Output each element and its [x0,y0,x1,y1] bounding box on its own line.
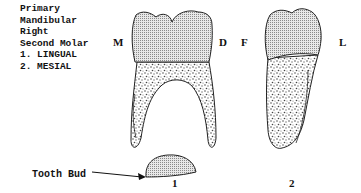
view-number-2: 2 [289,177,295,189]
root-mesial [131,62,216,147]
mesial-label: M [113,36,123,48]
tooth-illustrations [0,0,361,193]
tooth-bud-label: Tooth Bud [32,169,86,180]
facial-label: F [241,36,248,48]
lingual-label: L [339,36,346,48]
tooth-bud [146,155,196,177]
tooth-mesial-view [265,9,321,149]
crown [132,11,212,62]
crown [265,9,321,60]
view-number-1: 1 [172,177,178,189]
tooth-lingual-view [92,11,216,180]
distal-label: D [219,36,227,48]
root [267,55,319,148]
